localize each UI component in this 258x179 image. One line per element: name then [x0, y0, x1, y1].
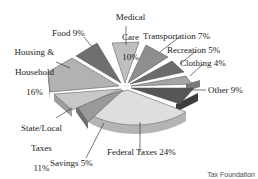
pie-label-federal-taxes: Federal Taxes 24%: [107, 147, 176, 157]
pie-label-other: Other 9%: [208, 85, 243, 95]
pie-label-recreation: Recreation 5%: [167, 45, 220, 55]
pie-label-food: Food 9%: [52, 28, 85, 38]
pie-label-medical-care-line1: Medical: [116, 12, 146, 22]
pie-label-housing-household-value: 16%: [26, 87, 43, 97]
pie-label-housing-household-line1: Housing &: [15, 47, 55, 57]
pie-label-state-local-taxes-line2: Taxes: [31, 143, 52, 153]
leader-line-savings: [86, 123, 104, 158]
leader-line-food: [84, 37, 92, 47]
pie-label-state-local-taxes-line1: State/Local: [21, 123, 62, 133]
pie-label-state-local-taxes-value: 11%: [33, 163, 49, 173]
pie-label-transportation: Transportation 7%: [143, 31, 210, 41]
pie-label-housing-household: Housing & Household 16%: [1, 37, 59, 107]
pie-label-medical-care-line2: Care: [122, 32, 139, 42]
attribution-text: Tax Foundation: [207, 171, 255, 178]
pie-chart-figure: Medical Care 10% Transportation 7% Recre…: [0, 0, 258, 179]
pie-label-housing-household-line2: Household: [15, 67, 54, 77]
pie-label-medical-care-value: 10%: [122, 52, 139, 62]
pie-label-state-local-taxes: State/Local Taxes 11%: [6, 113, 68, 179]
pie-label-clothing: Clothing 4%: [180, 58, 226, 68]
